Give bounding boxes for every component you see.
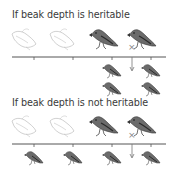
offspring-bird-icon (102, 83, 121, 96)
eliminated-bird-icon (50, 29, 74, 50)
offspring-bird-icon (63, 152, 82, 165)
x-mark-icon: × (128, 42, 136, 52)
panel-2: × (12, 116, 166, 165)
survivor-bird-icon (89, 117, 118, 136)
diagram-canvas: × × (0, 0, 176, 173)
offspring-bird-icon (141, 65, 160, 78)
x-mark-icon: × (128, 130, 136, 140)
offspring-bird-icon (24, 152, 43, 165)
eliminated-bird-icon (12, 29, 36, 50)
offspring-bird-icon (102, 152, 121, 165)
panel-1: × (12, 29, 166, 96)
offspring-bird-icon (141, 152, 160, 165)
eliminated-bird-icon (50, 116, 74, 137)
offspring-bird-icon (102, 65, 121, 78)
offspring-bird-icon (141, 83, 160, 96)
eliminated-bird-icon (12, 116, 36, 137)
down-arrow-icon (130, 57, 134, 71)
down-arrow-icon (130, 144, 134, 158)
survivor-bird-icon (89, 30, 118, 49)
